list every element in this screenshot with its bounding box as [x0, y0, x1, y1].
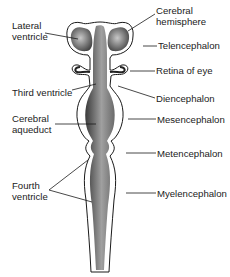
label-diencephalon: Diencephalon — [156, 93, 215, 104]
label-retina-of-eye: Retina of eye — [156, 65, 213, 76]
label-line: aqueduct — [12, 124, 51, 135]
label-lateral-ventricle: Lateral ventricle — [12, 20, 48, 42]
label-myelencephalon: Myelencephalon — [157, 188, 227, 199]
brain-vesicle-diagram: Lateral ventricle Cerebral hemisphere Te… — [0, 0, 230, 277]
label-line: Lateral — [12, 20, 48, 31]
label-telencephalon: Telencephalon — [158, 40, 220, 51]
label-line: ventricle — [12, 191, 48, 202]
label-metencephalon: Metencephalon — [157, 148, 223, 159]
label-cerebral-hemisphere: Cerebral hemisphere — [156, 5, 206, 27]
label-fourth-ventricle: Fourth ventricle — [12, 180, 48, 202]
label-cerebral-aqueduct: Cerebral aqueduct — [12, 113, 51, 135]
label-third-ventricle: Third ventricle — [12, 87, 72, 98]
label-line: hemisphere — [156, 16, 206, 27]
label-line: ventricle — [12, 31, 48, 42]
label-mesencephalon: Mesencephalon — [157, 114, 225, 125]
label-line: Fourth — [12, 180, 48, 191]
label-line: Cerebral — [156, 5, 206, 16]
label-line: Cerebral — [12, 113, 51, 124]
